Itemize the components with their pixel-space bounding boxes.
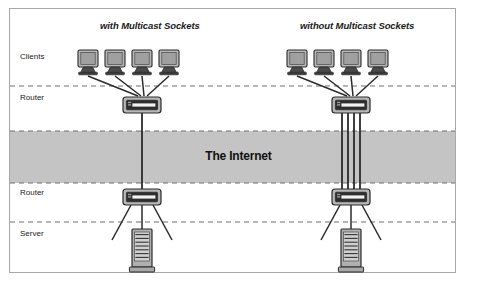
client-workstation[interactable] [314, 50, 334, 75]
client-workstation[interactable] [159, 50, 179, 75]
network-diagram-canvas [0, 0, 477, 285]
server-tower[interactable] [129, 229, 154, 272]
link-client-1 [297, 76, 347, 96]
client-workstation[interactable] [132, 50, 152, 75]
right-clients [287, 50, 388, 75]
router-top[interactable] [123, 97, 161, 113]
link-client-3 [142, 76, 144, 96]
figure-container: with Multicast Sockets without Multicast… [0, 0, 477, 285]
client-workstation[interactable] [368, 50, 388, 75]
row-label-clients: Clients [20, 52, 44, 61]
server-tower[interactable] [338, 229, 363, 272]
link-client-3 [351, 76, 353, 96]
client-workstation[interactable] [105, 50, 125, 75]
internet-band-label: The Internet [0, 149, 477, 163]
row-label-server: Server [20, 229, 44, 238]
panel-title-right: without Multicast Sockets [300, 20, 414, 31]
row-label-router-top: Router [20, 93, 44, 102]
router-bottom[interactable] [332, 189, 370, 205]
row-label-router-bottom: Router [20, 188, 44, 197]
client-workstation[interactable] [287, 50, 307, 75]
left-clients [78, 50, 179, 75]
panel-title-left: with Multicast Sockets [100, 20, 200, 31]
client-workstation[interactable] [341, 50, 361, 75]
router-bottom[interactable] [123, 189, 161, 205]
client-workstation[interactable] [78, 50, 98, 75]
router-top[interactable] [332, 97, 370, 113]
